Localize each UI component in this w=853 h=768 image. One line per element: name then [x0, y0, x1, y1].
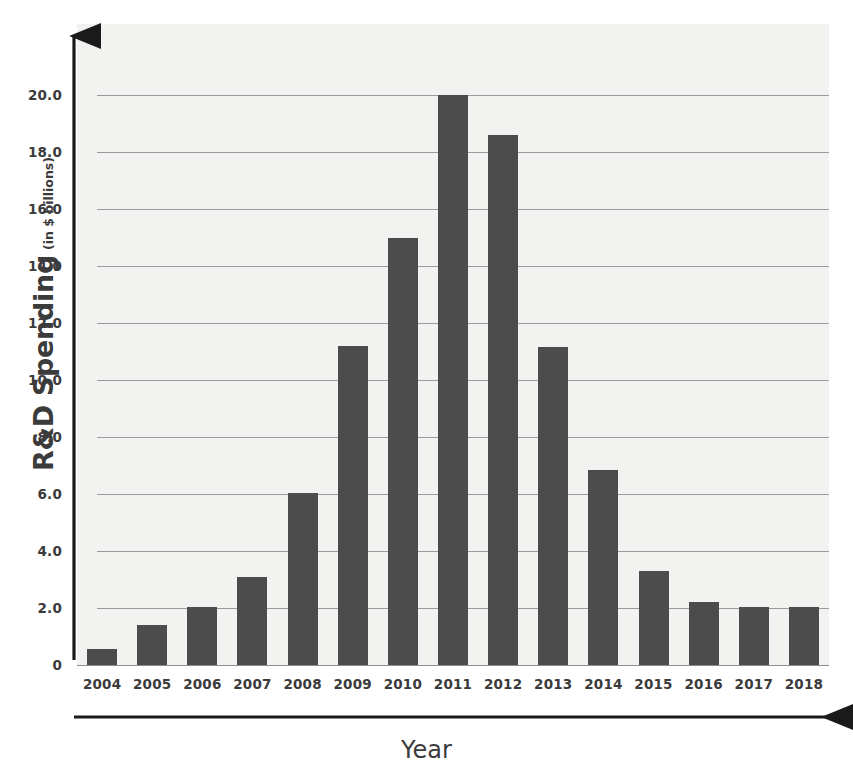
x-tick-label: 2013: [534, 676, 572, 692]
y-tick-label: 20.0: [28, 87, 62, 103]
bar: [538, 347, 568, 665]
bar: [237, 577, 267, 665]
bar: [639, 571, 669, 665]
bar: [87, 649, 117, 665]
bar: [689, 602, 719, 665]
y-tick-label: 10.0: [28, 372, 62, 388]
y-tick-label: 14.0: [28, 258, 62, 274]
bar: [187, 607, 217, 665]
x-tick-label: 2009: [334, 676, 372, 692]
x-tick-label: 2008: [283, 676, 321, 692]
y-tick-label: 2.0: [37, 600, 62, 616]
y-tick-label: 12.0: [28, 315, 62, 331]
x-tick-label: 2005: [133, 676, 171, 692]
bars-layer: [77, 24, 829, 665]
x-tick-label: 2010: [384, 676, 422, 692]
bar: [137, 625, 167, 665]
y-tick-label: 18.0: [28, 144, 62, 160]
x-tick-label: 2004: [83, 676, 121, 692]
axis-baseline: [77, 665, 829, 666]
bar: [739, 607, 769, 665]
x-tick-label: 2015: [634, 676, 672, 692]
x-tick-label: 2016: [684, 676, 722, 692]
y-tick-label: 4.0: [37, 543, 62, 559]
plot-area: [77, 24, 829, 665]
x-tick-label: 2017: [735, 676, 773, 692]
y-tick-label: 0: [52, 657, 62, 673]
x-axis-tick-labels: 2004200520062007200820092010201120122013…: [77, 676, 829, 700]
x-tick-label: 2006: [183, 676, 221, 692]
bar: [438, 95, 468, 665]
bar: [588, 470, 618, 665]
x-axis-title: Year: [0, 736, 853, 764]
x-tick-label: 2014: [584, 676, 622, 692]
x-tick-label: 2007: [233, 676, 271, 692]
y-tick-label: 6.0: [37, 486, 62, 502]
y-tick-label: 16.0: [28, 201, 62, 217]
x-tick-label: 2012: [484, 676, 522, 692]
x-tick-label: 2011: [434, 676, 472, 692]
bar-chart-figure: R&D Spending (in $ billions) 20.018.016.…: [0, 0, 853, 768]
bar: [338, 346, 368, 665]
y-tick-label: 8.0: [37, 429, 62, 445]
bar: [388, 238, 418, 666]
bar: [288, 493, 318, 665]
y-axis-tick-labels: 20.018.016.014.012.010.08.06.04.02.00: [0, 24, 70, 665]
x-tick-label: 2018: [785, 676, 823, 692]
bar: [488, 135, 518, 665]
bar: [789, 607, 819, 665]
